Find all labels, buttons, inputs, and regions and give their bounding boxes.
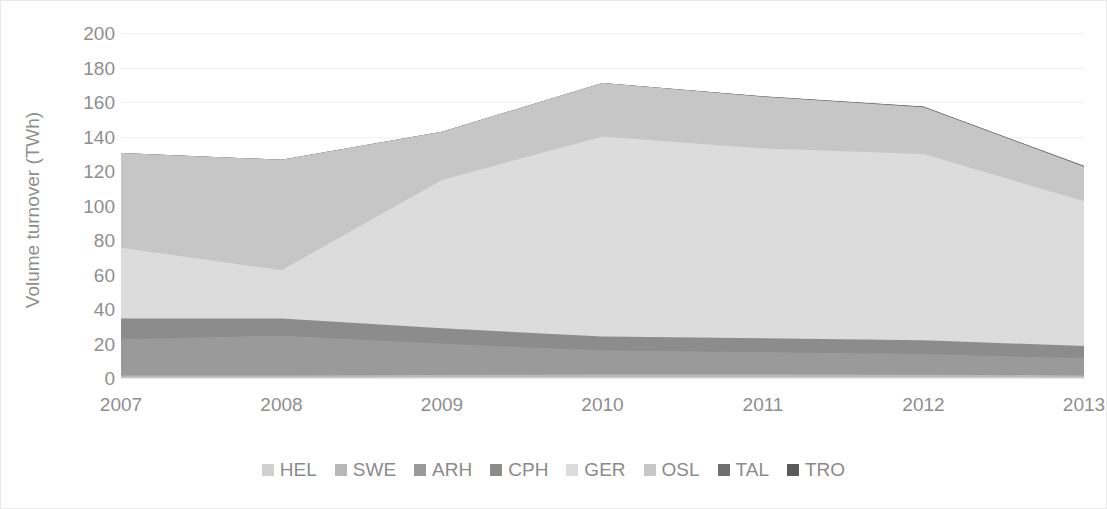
legend-label: OSL [662,460,700,479]
legend-label: GER [584,460,625,479]
legend-swatch-icon [644,464,656,476]
legend-swatch-icon [787,464,799,476]
legend-item-osl[interactable]: OSL [644,460,700,479]
legend-label: ARH [432,460,472,479]
y-tick-label: 140 [7,127,115,146]
legend-swatch-icon [335,464,347,476]
y-tick-label: 60 [7,265,115,284]
legend-swatch-icon [490,464,502,476]
legend-label: TRO [805,460,845,479]
x-tick-label: 2012 [902,394,944,416]
stacked-area-series [121,33,1084,378]
y-tick-label: 200 [7,24,115,43]
y-tick-label: 180 [7,58,115,77]
x-tick-label: 2009 [421,394,463,416]
x-tick-label: 2013 [1063,394,1105,416]
x-tick-label: 2007 [100,394,142,416]
x-tick-label: 2011 [743,394,784,416]
gridline-0 [121,378,1084,379]
y-tick-label: 80 [7,231,115,250]
y-tick-label: 120 [7,162,115,181]
legend-label: SWE [353,460,396,479]
legend-item-hel[interactable]: HEL [262,460,317,479]
y-tick-label: 160 [7,93,115,112]
legend-swatch-icon [718,464,730,476]
legend-label: CPH [508,460,548,479]
y-axis: 020406080100120140160180200 [1,1,115,509]
x-tick-label: 2008 [260,394,302,416]
plot-area [121,33,1084,378]
x-tick-label: 2010 [581,394,623,416]
legend-item-swe[interactable]: SWE [335,460,396,479]
chart-container: Volume turnover (TWh) 020406080100120140… [0,0,1107,509]
legend-swatch-icon [414,464,426,476]
legend-swatch-icon [566,464,578,476]
legend-item-tro[interactable]: TRO [787,460,845,479]
legend-label: HEL [280,460,317,479]
y-tick-label: 100 [7,196,115,215]
legend-item-ger[interactable]: GER [566,460,625,479]
legend-item-tal[interactable]: TAL [718,460,769,479]
legend-item-arh[interactable]: ARH [414,460,472,479]
legend-item-cph[interactable]: CPH [490,460,548,479]
y-tick-label: 20 [7,334,115,353]
legend-swatch-icon [262,464,274,476]
y-tick-label: 40 [7,300,115,319]
y-tick-label: 0 [7,369,115,388]
x-axis: 2007200820092010201120122013 [121,394,1084,424]
chart-legend: HELSWEARHCPHGEROSLTALTRO [1,460,1106,479]
legend-label: TAL [736,460,769,479]
